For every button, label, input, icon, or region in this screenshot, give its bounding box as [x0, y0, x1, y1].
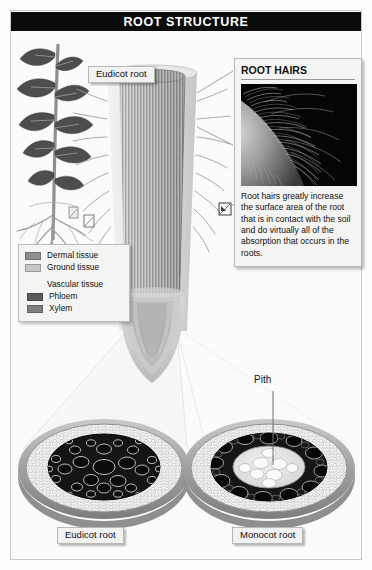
legend-label-ground: Ground tissue — [47, 262, 99, 273]
legend-label-vascular: Vascular tissue — [47, 279, 103, 290]
legend-swatch-ground — [25, 264, 41, 272]
eudicot-cross-section — [18, 419, 190, 529]
root-hairs-caption: Root hairs greatly increase the surface … — [241, 191, 355, 259]
legend-swatch-xylem — [27, 305, 43, 313]
legend-swatch-phloem — [27, 293, 43, 301]
root-hairs-title: ROOT HAIRS — [241, 64, 355, 80]
legend-group-vascular-tissue: Vascular tissue — [25, 279, 123, 290]
tissue-legend: Dermal tissue Ground tissue Vascular tis… — [18, 244, 130, 322]
legend-label-phloem: Phloem — [49, 291, 77, 302]
label-pith: Pith — [254, 374, 271, 385]
monocot-cross-section — [183, 391, 355, 529]
root-hairs-panel: ROOT HAIRS — [234, 58, 362, 267]
legend-swatch-dermal — [25, 252, 41, 260]
legend-item-phloem: Phloem — [25, 291, 123, 302]
page-title: ROOT STRUCTURE — [123, 15, 248, 29]
root-structure-diagram: ROOT STRUCTURE — [0, 0, 372, 570]
legend-item-xylem: Xylem — [25, 303, 123, 314]
legend-label-dermal: Dermal tissue — [47, 250, 98, 261]
page-title-bar: ROOT STRUCTURE — [11, 12, 361, 31]
legend-item-dermal-tissue: Dermal tissue — [25, 250, 123, 261]
eudicot-root-cylinder — [73, 65, 247, 383]
label-eudicot-root-top: Eudicot root — [88, 66, 155, 83]
label-monocot-root-bottom: Monocot root — [232, 527, 303, 544]
legend-item-ground-tissue: Ground tissue — [25, 262, 123, 273]
label-eudicot-root-bottom: Eudicot root — [57, 527, 124, 544]
legend-label-xylem: Xylem — [49, 303, 72, 314]
root-hairs-micrograph — [241, 84, 357, 186]
